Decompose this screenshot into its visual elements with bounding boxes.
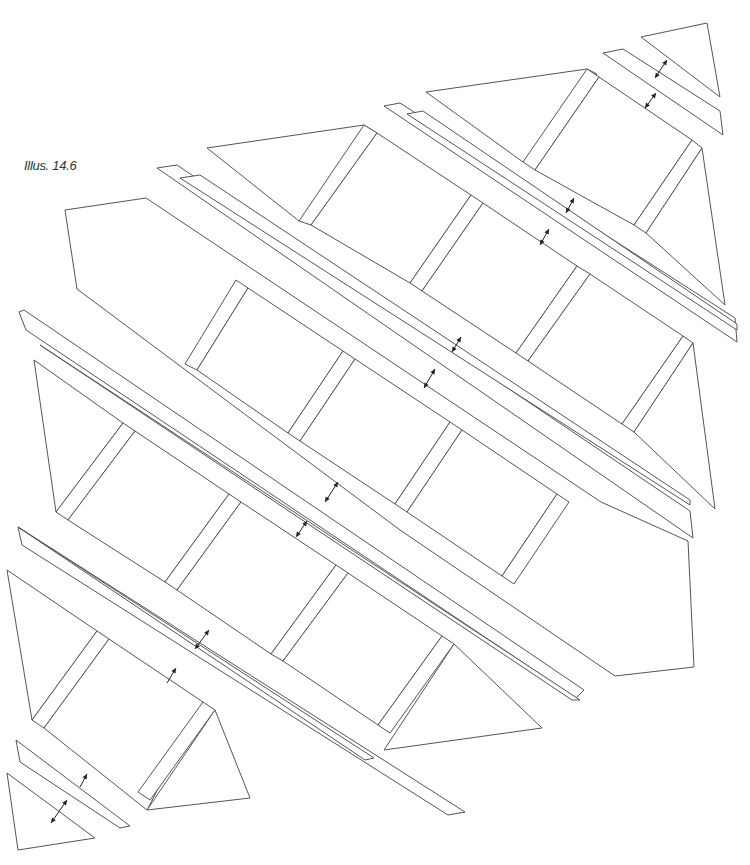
- press-direction-arrow-icon: [325, 482, 338, 502]
- press-direction-arrow-icon: [424, 369, 435, 388]
- quilt-assembly-diagram: [0, 0, 750, 865]
- illustration-caption: Illus. 14.6: [24, 158, 76, 173]
- arrow-head-icon: [296, 532, 301, 537]
- arrow-head-icon: [204, 630, 209, 635]
- arrow-head-icon: [325, 496, 330, 502]
- press-direction-arrow-icon: [296, 521, 307, 537]
- press-direction-arrow-icon: [645, 93, 656, 108]
- arrow-head-icon: [662, 60, 667, 65]
- press-direction-arrow-icon: [540, 229, 549, 245]
- arrow-head-icon: [62, 800, 67, 805]
- press-direction-arrow-icon: [80, 774, 87, 787]
- arrow-head-icon: [333, 482, 338, 488]
- arrow-head-icon: [645, 103, 650, 108]
- quilt-pieces: [7, 23, 737, 850]
- arrow-head-icon: [651, 93, 656, 98]
